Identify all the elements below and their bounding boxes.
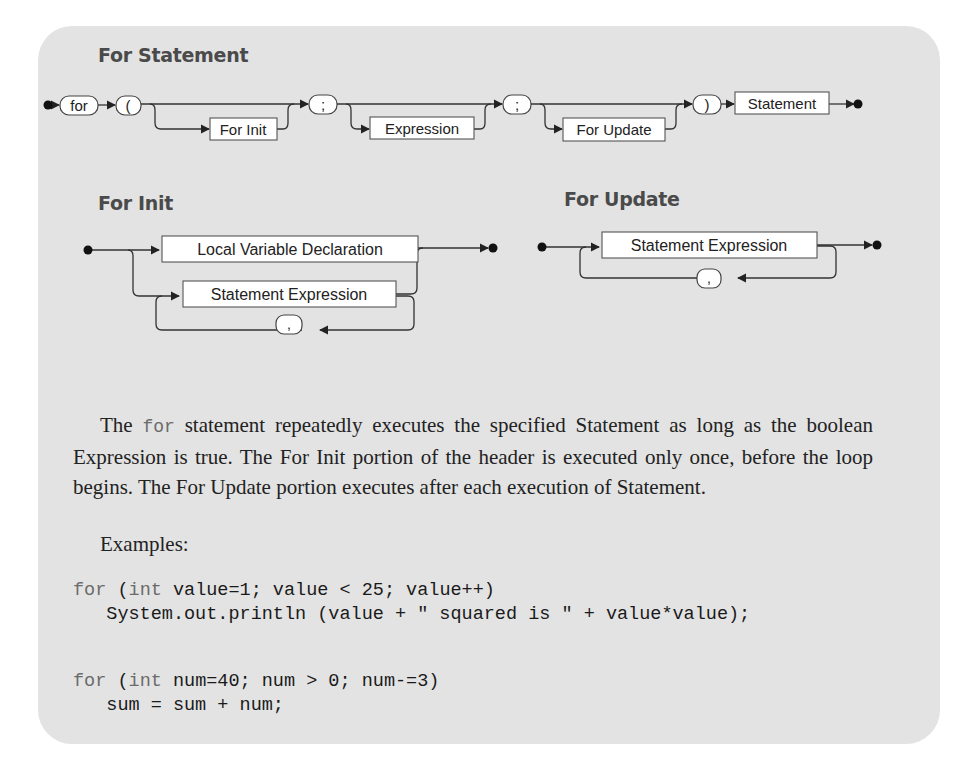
- code-text: (: [106, 580, 128, 601]
- code-keyword: for: [73, 580, 106, 601]
- code-text: (: [106, 671, 128, 692]
- code-text: num=40; num > 0; num-=3): [162, 671, 440, 692]
- for-update-start-dot-icon: [538, 243, 547, 252]
- for-init-end-dot-icon: [489, 244, 498, 253]
- for-update-comma: ,: [707, 270, 711, 286]
- code-keyword: int: [129, 580, 162, 601]
- for-init-start-dot-icon: [84, 246, 93, 255]
- terminal-close-paren: ): [705, 96, 710, 113]
- code-text: value=1; value < 25; value++): [162, 580, 495, 601]
- nonterminal-expression: Expression: [385, 120, 459, 137]
- terminal-for: for: [70, 97, 88, 114]
- code-example-1: for (int value=1; value < 25; value++) S…: [73, 579, 750, 627]
- terminal-semicolon-1: ;: [321, 96, 325, 113]
- description-body: statement repeatedly executes the specif…: [73, 413, 873, 499]
- for-update-statement-expression: Statement Expression: [631, 237, 788, 254]
- for-init-statement-expression: Statement Expression: [211, 286, 368, 303]
- start-dot-icon: [44, 101, 53, 110]
- for-init-comma: ,: [287, 316, 291, 332]
- code-keyword: for: [73, 671, 106, 692]
- nonterminal-statement: Statement: [748, 95, 817, 112]
- heading-for-init: For Init: [98, 192, 173, 214]
- description-keyword: for: [142, 417, 174, 437]
- code-example-2: for (int num=40; num > 0; num-=3) sum = …: [73, 670, 439, 718]
- nonterminal-for-init: For Init: [220, 121, 268, 138]
- examples-label: Examples:: [100, 532, 189, 557]
- for-update-end-dot-icon: [873, 241, 882, 250]
- nonterminal-local-variable-declaration: Local Variable Declaration: [197, 241, 383, 258]
- code-text: sum = sum + num;: [73, 695, 284, 716]
- nonterminal-for-update: For Update: [576, 121, 651, 138]
- code-text: System.out.println (value + " squared is…: [73, 604, 750, 625]
- end-dot-icon: [854, 100, 863, 109]
- terminal-semicolon-2: ;: [515, 96, 519, 113]
- code-keyword: int: [129, 671, 162, 692]
- heading-for-update: For Update: [564, 188, 680, 210]
- description-text: The for statement repeatedly executes th…: [73, 410, 873, 502]
- description-prefix: The: [100, 413, 142, 437]
- terminal-open-paren: (: [126, 97, 131, 114]
